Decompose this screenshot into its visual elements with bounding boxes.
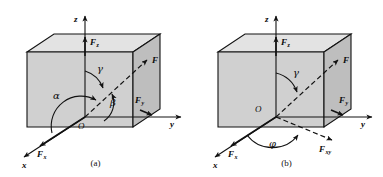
origin-label: O xyxy=(255,104,262,114)
box-front-face xyxy=(218,52,324,127)
angle-gamma-label: γ xyxy=(293,67,299,78)
resultant-force-label: F xyxy=(342,55,349,65)
y-axis-label: y xyxy=(169,119,175,129)
figure-panel-a: z y x O Fz F Fy Fx γ β α (a) xyxy=(0,0,191,177)
y-axis-label: y xyxy=(360,119,366,129)
force-xy-label: Fxy xyxy=(318,144,332,155)
origin-label: O xyxy=(78,121,85,131)
angle-beta-label: β xyxy=(109,97,116,108)
panel-a-drawing: z y x O Fz F Fy Fx γ β α xyxy=(0,0,191,177)
resultant-force-label: F xyxy=(151,55,158,65)
panel-a-caption: (a) xyxy=(0,158,191,168)
angle-phi-label: φ xyxy=(269,138,276,149)
panel-b-caption: (b) xyxy=(191,158,382,168)
z-axis-label: z xyxy=(73,14,78,24)
figure-root: z y x O Fz F Fy Fx γ β α (a) xyxy=(0,0,383,177)
angle-alpha-label: α xyxy=(53,90,60,101)
panel-b-drawing: z y x O Fz F Fy Fx Fxy γ φ xyxy=(191,0,382,177)
figure-panel-b: z y x O Fz F Fy Fx Fxy γ φ (b) xyxy=(191,0,382,177)
box-front-face xyxy=(27,52,133,127)
z-axis-label: z xyxy=(264,14,269,24)
angle-gamma-label: γ xyxy=(97,63,103,74)
